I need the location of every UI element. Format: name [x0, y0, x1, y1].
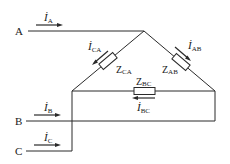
impedance-bc	[134, 88, 155, 95]
current-c-label: İC	[43, 131, 53, 145]
impedance-ca-label: ZCA	[116, 64, 132, 76]
impedance-ca	[99, 53, 117, 70]
current-ca-label: İCA	[87, 40, 101, 54]
delta-circuit-diagram: A B C İA İB İC İCA İAB İB	[0, 0, 230, 164]
current-bc-label: İBC	[136, 101, 150, 115]
impedance-ab-label: ZAB	[162, 64, 178, 76]
impedance-bc-label: ZBC	[136, 76, 152, 88]
current-ab-label: İAB	[187, 39, 202, 53]
current-a-label: İA	[43, 11, 53, 25]
current-bc-arrow	[132, 96, 155, 100]
node-b-label: B	[15, 115, 22, 127]
current-b-label: İB	[43, 101, 53, 115]
node-a-label: A	[15, 25, 23, 37]
node-c-label: C	[15, 145, 22, 157]
